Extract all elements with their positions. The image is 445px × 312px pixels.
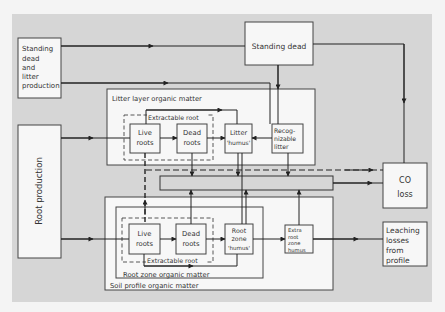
label-line: Litter <box>230 129 248 137</box>
label: Root zone organic matter <box>123 271 210 279</box>
node-co-loss: CO loss <box>383 163 427 208</box>
label: Litter layer organic matter <box>112 95 202 103</box>
organic-matter-flow-diagram: Standing dead and litter production Stan… <box>0 0 445 312</box>
node-extra-root-zone-humus: Extra root zone humus <box>285 225 313 253</box>
node-dead-roots-bottom: Dead roots <box>176 224 206 254</box>
node-dead-roots-top: Dead roots <box>177 124 207 153</box>
label-line: roots <box>136 240 154 248</box>
label-line: Extra <box>288 227 302 233</box>
node-litter-humus: Litter 'humus' <box>225 124 252 153</box>
label-line: losses <box>386 236 409 245</box>
label-line: nizable <box>274 135 296 142</box>
label-line: litter <box>274 143 289 150</box>
node-live-roots-bottom: Live roots <box>129 224 160 254</box>
node-leaching-losses: Leaching losses from profile <box>383 222 427 266</box>
label-line: Leaching <box>386 226 420 235</box>
label-line: zone <box>231 235 246 242</box>
label-line: humus <box>288 247 306 253</box>
node-live-roots-top: Live roots <box>130 124 160 153</box>
label-line: roots <box>182 240 200 248</box>
label-line: roots <box>183 139 201 147</box>
label-line: litter <box>22 73 39 81</box>
node-standing-dead: Standing dead <box>245 22 313 65</box>
label: Extractable root <box>147 257 198 264</box>
label-line: and <box>22 64 35 72</box>
label: Standing dead <box>252 42 307 51</box>
label-line: profile <box>386 256 410 265</box>
label-line: production <box>22 82 60 90</box>
label-line: Root <box>232 227 247 234</box>
label-line: zone <box>288 240 300 246</box>
node-standing-dead-litter-production: Standing dead and litter production <box>18 38 61 98</box>
label-line: loss <box>397 190 412 199</box>
label-line: Live <box>138 129 152 137</box>
label-line: Live <box>138 230 152 238</box>
label-line: 'humus' <box>228 245 250 251</box>
label-line: CO <box>399 176 411 185</box>
node-root-production: Root production <box>18 125 61 258</box>
co-collector-bar <box>160 176 333 190</box>
node-root-zone-humus: Root zone 'humus' <box>225 224 253 254</box>
node-recognizable-litter: Recog- nizable litter <box>272 124 303 153</box>
label-line: Standing <box>22 45 53 53</box>
label: Soil profile organic matter <box>110 282 199 290</box>
label-line: dead <box>22 55 39 63</box>
label-line: Dead <box>183 129 201 137</box>
label: Extractable root <box>148 114 199 121</box>
label-line: Dead <box>182 230 200 238</box>
label-line: roots <box>136 139 154 147</box>
label-line: 'humus' <box>227 139 251 146</box>
label: Root production <box>34 157 44 225</box>
label-line: from <box>386 246 403 255</box>
label-line: Recog- <box>274 127 295 135</box>
label-line: root <box>288 234 298 240</box>
